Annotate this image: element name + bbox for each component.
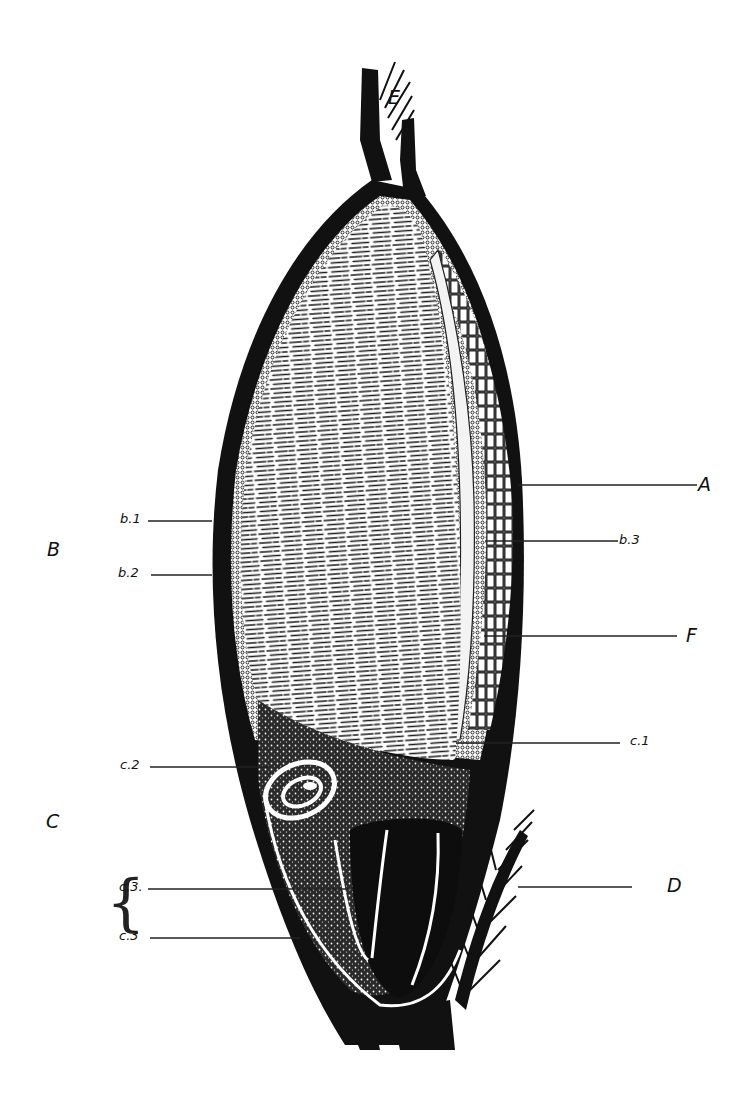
- grain-section-illustration: [0, 0, 748, 1117]
- endosperm: [241, 206, 461, 760]
- label-B: B: [47, 540, 60, 559]
- label-b3: b.3: [619, 533, 640, 546]
- label-c3b: c.3: [119, 929, 139, 942]
- label-F: F: [686, 626, 697, 645]
- label-c2: c.2: [120, 758, 140, 771]
- label-c1: c.1: [630, 734, 650, 747]
- label-D: D: [667, 876, 682, 895]
- stalk-top: [360, 62, 426, 196]
- label-c3a: c.3.: [119, 880, 143, 893]
- label-E: E: [388, 88, 400, 107]
- label-b1: b.1: [120, 512, 141, 525]
- label-A: A: [698, 475, 711, 494]
- label-b2: b.2: [118, 566, 139, 579]
- label-C: C: [46, 812, 59, 831]
